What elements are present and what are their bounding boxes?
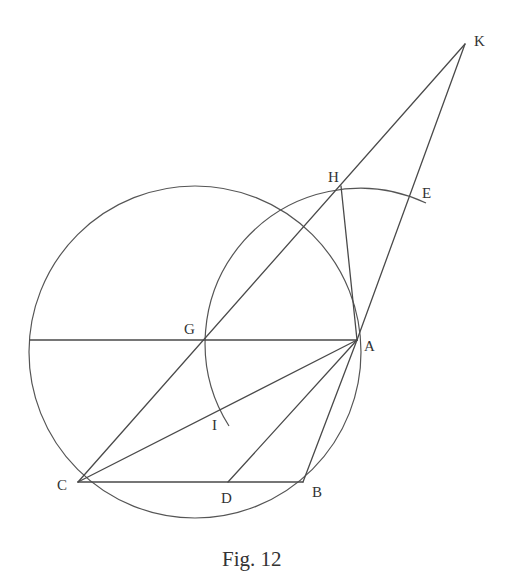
segment-da	[228, 340, 357, 482]
label-b: B	[312, 484, 322, 500]
segment-ca	[78, 340, 357, 482]
geometry-figure: K H E A G I C D B Fig. 12	[0, 0, 514, 584]
segment-ck	[78, 44, 465, 482]
segment-ah	[341, 186, 357, 340]
segment-ak	[357, 44, 465, 340]
arc-ihe	[205, 188, 426, 426]
figure-caption: Fig. 12	[222, 547, 282, 571]
label-e: E	[422, 185, 431, 201]
label-i: I	[212, 417, 217, 433]
main-circle	[29, 186, 361, 518]
label-a: A	[364, 338, 375, 354]
label-h: H	[328, 169, 339, 185]
label-c: C	[57, 477, 67, 493]
label-g: G	[184, 321, 195, 337]
label-k: K	[474, 33, 485, 49]
segment-ba	[303, 340, 357, 482]
label-d: D	[221, 490, 232, 506]
